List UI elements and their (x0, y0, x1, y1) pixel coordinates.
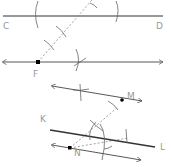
point-f (36, 60, 40, 64)
point-m (120, 98, 124, 102)
construction-arcs-top (36, 1, 119, 71)
label-d: D (156, 21, 163, 31)
transversal-n (70, 138, 128, 148)
label-m: M (127, 91, 135, 101)
label-k: K (40, 114, 47, 124)
point-n (68, 146, 72, 150)
transversal-f (38, 0, 92, 62)
label-n: N (74, 148, 81, 158)
construction-arcs-m (73, 84, 118, 110)
line-kl (50, 130, 155, 147)
label-f: F (33, 69, 38, 79)
transversal-nm (70, 107, 118, 148)
label-c: C (3, 21, 9, 31)
construction-diagram: C D F M K L (0, 0, 173, 167)
label-l: L (160, 142, 165, 152)
parallel-line-n (52, 145, 141, 160)
